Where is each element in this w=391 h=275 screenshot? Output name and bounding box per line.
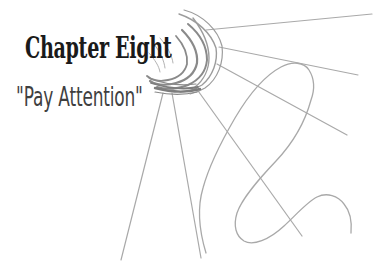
chapter-subtitle: "Pay Attention" xyxy=(16,83,143,110)
sun-ray xyxy=(219,47,358,75)
book-chapter-page: Chapter Eight "Pay Attention" xyxy=(0,0,391,275)
squiggle-line xyxy=(199,63,351,253)
sun-ray xyxy=(121,93,163,260)
sun-ray xyxy=(172,93,201,258)
sun-ray xyxy=(206,14,372,30)
chapter-title: Chapter Eight xyxy=(25,34,171,63)
sun-ray xyxy=(217,64,347,135)
